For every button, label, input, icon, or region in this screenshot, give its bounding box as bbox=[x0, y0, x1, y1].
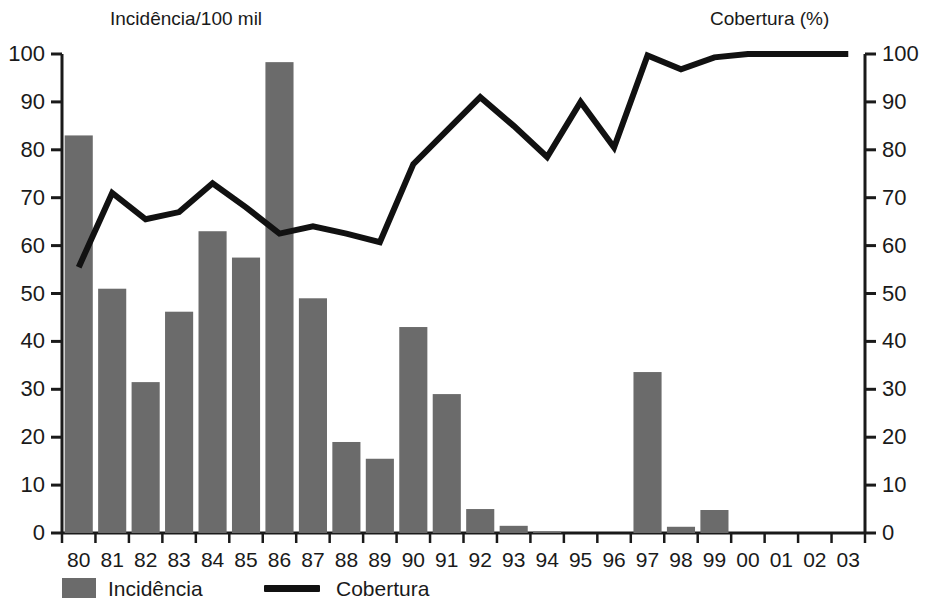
bar-82 bbox=[132, 382, 160, 533]
right-axis-title: Cobertura (%) bbox=[710, 8, 829, 30]
bar-88 bbox=[332, 442, 360, 533]
left-axis-ticks bbox=[51, 54, 62, 533]
right-axis-tick-60: 60 bbox=[882, 235, 928, 257]
bar-94 bbox=[533, 532, 561, 533]
bar-series-incidencia bbox=[65, 62, 729, 533]
line-series-cobertura bbox=[79, 54, 849, 267]
bar-84 bbox=[199, 231, 227, 533]
bar-98 bbox=[667, 527, 695, 533]
right-axis-tick-90: 90 bbox=[882, 91, 928, 113]
left-axis-tick-50: 50 bbox=[0, 283, 45, 305]
left-axis-tick-70: 70 bbox=[0, 187, 45, 209]
left-axis-title: Incidência/100 mil bbox=[110, 8, 262, 30]
right-axis-tick-50: 50 bbox=[882, 283, 928, 305]
right-axis-tick-70: 70 bbox=[882, 187, 928, 209]
left-axis-tick-20: 20 bbox=[0, 426, 45, 448]
bar-91 bbox=[433, 394, 461, 533]
bar-93 bbox=[500, 526, 528, 533]
bar-89 bbox=[366, 459, 394, 533]
left-axis-tick-100: 100 bbox=[0, 43, 45, 65]
bar-90 bbox=[399, 327, 427, 533]
legend-label-incidencia: Incidência bbox=[108, 577, 203, 601]
right-axis-tick-100: 100 bbox=[882, 43, 928, 65]
bar-81 bbox=[98, 289, 126, 533]
bar-99 bbox=[700, 510, 728, 533]
bar-92 bbox=[466, 509, 494, 533]
legend-label-cobertura: Cobertura bbox=[336, 577, 429, 601]
right-axis-tick-20: 20 bbox=[882, 426, 928, 448]
right-axis-tick-10: 10 bbox=[882, 474, 928, 496]
bar-86 bbox=[265, 62, 293, 533]
bar-87 bbox=[299, 298, 327, 533]
plot-area bbox=[0, 0, 938, 612]
left-axis-tick-80: 80 bbox=[0, 139, 45, 161]
bar-97 bbox=[633, 372, 661, 533]
left-axis-tick-30: 30 bbox=[0, 378, 45, 400]
legend-line-swatch-icon bbox=[264, 585, 320, 592]
cobertura-line bbox=[79, 54, 849, 267]
right-axis-tick-0: 0 bbox=[882, 522, 928, 544]
legend-bar-swatch-icon bbox=[62, 578, 96, 598]
bar-80 bbox=[65, 135, 93, 533]
left-axis-tick-10: 10 bbox=[0, 474, 45, 496]
left-axis-tick-40: 40 bbox=[0, 330, 45, 352]
right-axis-tick-30: 30 bbox=[882, 378, 928, 400]
right-axis-tick-40: 40 bbox=[882, 330, 928, 352]
left-axis-tick-90: 90 bbox=[0, 91, 45, 113]
left-axis-tick-60: 60 bbox=[0, 235, 45, 257]
left-axis-tick-0: 0 bbox=[0, 522, 45, 544]
right-axis-tick-80: 80 bbox=[882, 139, 928, 161]
bar-85 bbox=[232, 258, 260, 533]
bar-83 bbox=[165, 312, 193, 533]
x-axis-tick-03: 03 bbox=[828, 549, 868, 570]
chart-container: Incidência/100 mil Cobertura (%) 0102030… bbox=[0, 0, 938, 612]
right-axis-ticks bbox=[865, 54, 876, 533]
